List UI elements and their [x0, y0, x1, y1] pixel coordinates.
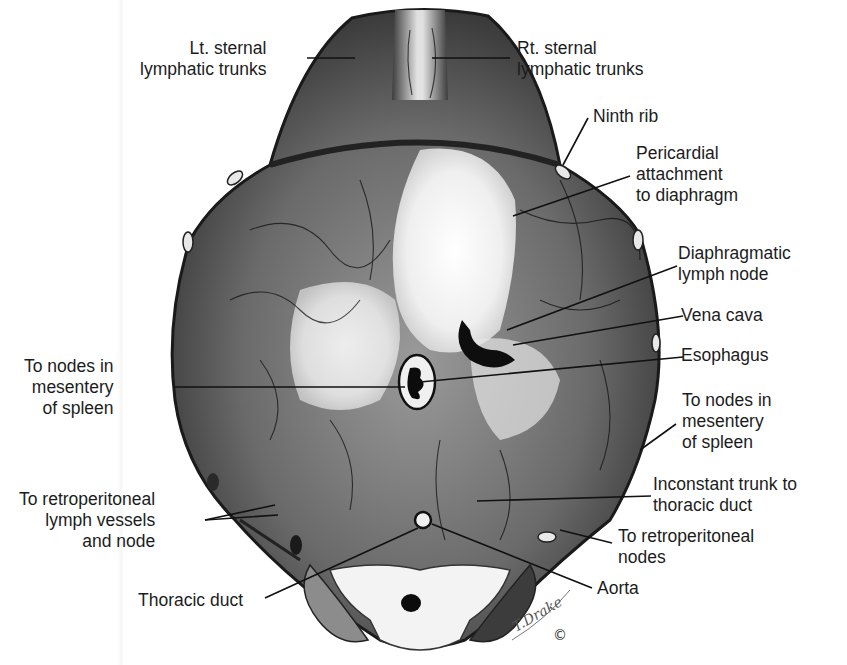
- label-pericardial-attachment: Pericardial attachment to diaphragm: [636, 143, 738, 206]
- label-diaphragmatic-lymph-node: Diaphragmatic lymph node: [678, 243, 791, 285]
- label-retroperitoneal-nodes: To retroperitoneal nodes: [618, 526, 754, 568]
- label-ninth-rib: Ninth rib: [593, 106, 658, 127]
- svg-text:©: ©: [553, 627, 567, 643]
- label-retroperitoneal-vessels: To retroperitoneal lymph vessels and nod…: [19, 489, 155, 552]
- label-nodes-mesentery-spleen-right: To nodes in mesentery of spleen: [682, 390, 772, 453]
- esophageal-hiatus: [399, 355, 435, 409]
- label-lt-sternal-lymphatic-trunks: Lt. sternal lymphatic trunks: [140, 38, 266, 80]
- label-vena-cava: Vena cava: [681, 305, 763, 326]
- label-inconstant-trunk: Inconstant trunk to thoracic duct: [653, 474, 797, 516]
- aortic-hiatus: [415, 512, 431, 528]
- label-thoracic-duct: Thoracic duct: [138, 590, 243, 611]
- label-aorta: Aorta: [597, 578, 639, 599]
- label-nodes-mesentery-spleen-left: To nodes in mesentery of spleen: [24, 356, 114, 419]
- label-esophagus: Esophagus: [681, 345, 769, 366]
- anatomy-figure: T.Drake © Lt. sternal lymphatic trunks R…: [0, 0, 847, 665]
- label-rt-sternal-lymphatic-trunks: Rt. sternal lymphatic trunks: [517, 38, 643, 80]
